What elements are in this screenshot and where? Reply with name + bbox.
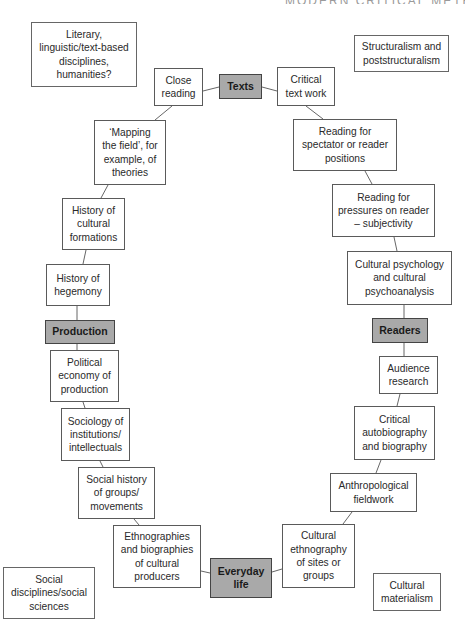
node-political-economy: Political economy of production bbox=[50, 350, 119, 402]
node-cultural-psychology: Cultural psychology and cultural psychoa… bbox=[347, 251, 452, 305]
node-sociology-institutions: Sociology of institutions/ intellectuals bbox=[61, 408, 130, 461]
hub-production: Production bbox=[45, 320, 115, 344]
node-history-cultural-formations: History of cultural formations bbox=[62, 198, 125, 250]
node-critical-text-work: Critical text work bbox=[277, 67, 335, 106]
node-anthropological-fieldwork: Anthropological fieldwork bbox=[330, 473, 417, 512]
node-audience-research: Audience research bbox=[379, 356, 438, 394]
domain-cultural-materialism: Cultural materialism bbox=[373, 573, 441, 611]
node-social-history: Social history of groups/ movements bbox=[78, 467, 155, 519]
domain-structuralism: Structuralism and poststructuralism bbox=[354, 35, 449, 72]
node-history-hegemony: History of hegemony bbox=[46, 264, 110, 306]
node-cultural-ethnography: Cultural ethnography of sites or groups bbox=[282, 524, 355, 588]
domain-social-disciplines: Social disciplines/social sciences bbox=[3, 567, 95, 619]
hub-texts: Texts bbox=[219, 74, 262, 99]
node-ethnographies-biographies: Ethnographies and biographies of cultura… bbox=[113, 525, 201, 588]
node-mapping-the-field: ‘Mapping the field’, for example, of the… bbox=[94, 120, 166, 185]
node-reading-pressures: Reading for pressures on reader – subjec… bbox=[332, 184, 435, 237]
node-reading-spectator: Reading for spectator or reader position… bbox=[293, 119, 397, 171]
hub-everyday-life: Everyday life bbox=[210, 558, 272, 598]
node-critical-autobiography: Critical autobiography and biography bbox=[354, 406, 435, 460]
domain-literary: Literary, linguistic/text-based discipli… bbox=[31, 22, 137, 87]
node-close-reading: Close reading bbox=[154, 68, 203, 106]
hub-readers: Readers bbox=[372, 318, 428, 343]
